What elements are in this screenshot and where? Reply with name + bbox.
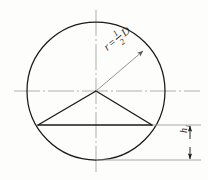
triangle-left-leg — [38, 91, 96, 125]
radius-leader-line — [96, 51, 143, 91]
technical-drawing-figure: r = 1 2 D h1 — [0, 0, 208, 180]
triangle-right-leg — [96, 91, 152, 125]
figure-canvas — [0, 0, 208, 180]
